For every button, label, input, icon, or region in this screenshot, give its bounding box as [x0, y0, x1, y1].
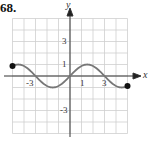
y-tick-3: 3 — [62, 36, 67, 46]
y-tick-neg3: -3 — [60, 105, 68, 115]
y-axis-label: y — [66, 0, 70, 10]
y-tick-1: 1 — [62, 59, 67, 69]
x-axis-label: x — [143, 69, 147, 80]
graph — [0, 0, 152, 141]
x-tick-1: 1 — [80, 78, 85, 88]
endpoint-dot — [10, 63, 16, 69]
endpoint-dot — [125, 83, 131, 89]
x-tick-3: 3 — [102, 78, 107, 88]
x-tick-neg3: -3 — [26, 78, 34, 88]
